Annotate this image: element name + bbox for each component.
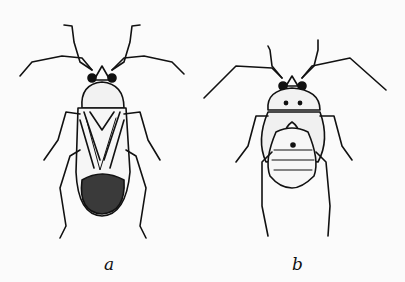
insect-a-drawing	[20, 25, 184, 238]
insect-b-drawing	[204, 40, 386, 236]
insect-drawings	[0, 0, 405, 282]
figure: a b	[0, 0, 405, 282]
panel-label-a: a	[104, 254, 114, 274]
panel-label-b: b	[292, 254, 303, 274]
